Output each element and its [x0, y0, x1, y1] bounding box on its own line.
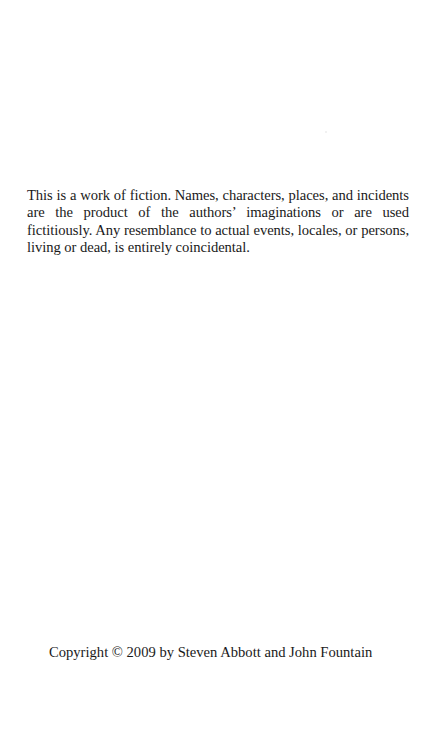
scan-speck	[325, 131, 327, 133]
copyright-notice: Copyright © 2009 by Steven Abbott and Jo…	[49, 644, 372, 661]
book-page: This is a work of fiction. Names, charac…	[0, 0, 425, 743]
fiction-disclaimer: This is a work of fiction. Names, charac…	[27, 187, 409, 256]
